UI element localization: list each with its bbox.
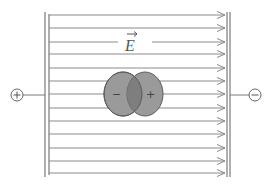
field-line — [49, 65, 225, 72]
field-line — [49, 51, 225, 58]
positive-terminal — [11, 89, 45, 101]
dipole-negative-sign: − — [112, 88, 121, 101]
field-line — [49, 12, 225, 19]
electric-field-diagram: E − + — [0, 0, 277, 185]
dipole: − + — [104, 72, 163, 116]
field-line — [49, 170, 225, 177]
field-line — [49, 158, 225, 165]
field-line — [49, 118, 225, 125]
field-line — [49, 145, 225, 152]
field-label-e: E — [124, 37, 135, 54]
field-line — [49, 25, 225, 32]
field-line — [49, 39, 225, 46]
negative-terminal — [230, 89, 261, 101]
dipole-positive-sign: + — [146, 88, 155, 101]
right-plate — [227, 12, 230, 177]
left-plate — [45, 12, 49, 177]
field-line — [49, 131, 225, 138]
field-label: E — [124, 32, 137, 55]
vector-arrow-icon — [127, 32, 137, 37]
